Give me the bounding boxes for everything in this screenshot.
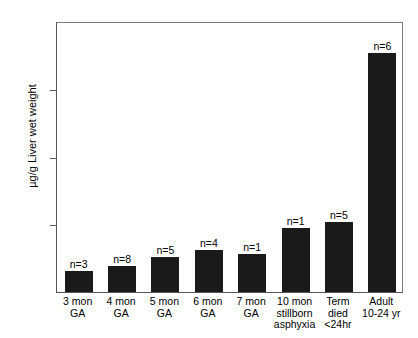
bar-sample-size-label: n=4 bbox=[200, 237, 218, 249]
x-axis-tick-label-line: GA bbox=[193, 308, 222, 320]
plot-area: n=3n=8n=5n=4n=1n=1n=5n=6 bbox=[56, 22, 403, 293]
x-axis-tick-label: 3 monGA bbox=[63, 296, 92, 319]
bar bbox=[151, 257, 179, 292]
x-axis-tick-label-line: 6 mon bbox=[193, 296, 222, 308]
x-axis-tick-label: 7 monGA bbox=[237, 296, 266, 319]
x-axis-tick-label-line: GA bbox=[106, 308, 135, 320]
bar-sample-size-label: n=8 bbox=[113, 253, 131, 265]
x-axis-tick-label-line: 4 mon bbox=[106, 296, 135, 308]
x-axis-tick-label: 6 monGA bbox=[193, 296, 222, 319]
y-axis-title: µg/g Liver wet weight bbox=[26, 36, 38, 236]
x-axis-tick-label-line: 10-24 yr bbox=[362, 308, 401, 320]
x-axis-tick-label: 5 monGA bbox=[150, 296, 179, 319]
x-axis-tick-label: Adult10-24 yr bbox=[362, 296, 401, 319]
bar-sample-size-label: n=6 bbox=[373, 40, 391, 52]
x-axis-tick-label: 4 monGA bbox=[106, 296, 135, 319]
x-axis-tick-label-line: 5 mon bbox=[150, 296, 179, 308]
x-axis-tick-label-line: 3 mon bbox=[63, 296, 92, 308]
x-axis-tick-label-line: GA bbox=[63, 308, 92, 320]
x-axis-tick-label-line: 10 mon bbox=[274, 296, 315, 308]
x-axis-tick-label: 10 monstillbornasphyxia bbox=[274, 296, 315, 331]
bar bbox=[325, 222, 353, 292]
bar bbox=[238, 254, 266, 292]
x-axis-tick-label-line: GA bbox=[150, 308, 179, 320]
bar bbox=[65, 271, 93, 292]
bar bbox=[368, 53, 396, 292]
bar-sample-size-label: n=1 bbox=[287, 215, 305, 227]
bar bbox=[195, 250, 223, 292]
x-axis-tick-label-line: asphyxia bbox=[274, 319, 315, 331]
x-axis-tick-label-line: Adult bbox=[362, 296, 401, 308]
x-axis-tick-label-line: GA bbox=[237, 308, 266, 320]
bar bbox=[282, 228, 310, 292]
bar bbox=[108, 266, 136, 292]
bar-sample-size-label: n=5 bbox=[157, 244, 175, 256]
x-axis-tick-label: Termdied<24hr bbox=[324, 296, 351, 331]
bar-sample-size-label: n=5 bbox=[330, 209, 348, 221]
x-axis-tick-label-line: Term bbox=[324, 296, 351, 308]
bar-sample-size-label: n=3 bbox=[70, 258, 88, 270]
x-axis-tick-label-line: <24hr bbox=[324, 319, 351, 331]
bar-chart-figure: µg/g Liver wet weight 06121824 n=3n=8n=5… bbox=[0, 0, 418, 338]
bar-sample-size-label: n=1 bbox=[243, 241, 261, 253]
x-axis-tick-label-line: 7 mon bbox=[237, 296, 266, 308]
